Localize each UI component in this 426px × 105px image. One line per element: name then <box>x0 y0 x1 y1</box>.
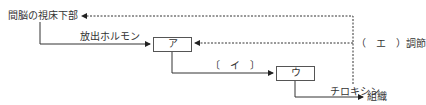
blank-i-label: 〔 イ 〕 <box>210 60 260 72</box>
regulation-label: （ エ ）調節 <box>356 38 426 50</box>
tissue-label: 組織 <box>367 91 387 103</box>
hypothalamus-label: 間脳の視床下部 <box>8 10 78 22</box>
releasing-hormone-label: 放出ホルモン <box>80 31 140 43</box>
box-u: ウ <box>276 66 315 81</box>
box-a: ア <box>153 37 192 52</box>
